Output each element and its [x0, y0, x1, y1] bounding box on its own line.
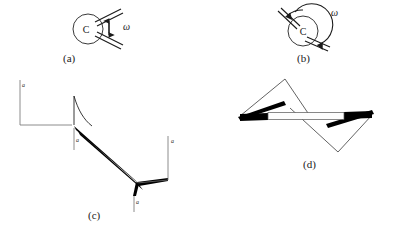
panel-c-dimension-label-3: a	[171, 138, 174, 144]
panel-a-caption: (a)	[63, 52, 76, 65]
panel-c-group: a a a a (c)	[20, 80, 174, 222]
panel-b-omega-label: ω	[331, 7, 338, 18]
panel-d-bar-right-cap	[344, 111, 372, 119]
panel-c-caption: (c)	[88, 209, 101, 222]
figure-canvas: C ω (a) C ω (b)	[0, 0, 402, 239]
panel-b-group: C ω (b)	[278, 4, 338, 65]
panel-d-central-bar	[268, 113, 344, 120]
panel-a-hinge-label: C	[83, 24, 90, 35]
panel-d-caption: (d)	[303, 158, 316, 171]
technical-figure: C ω (a) C ω (b)	[0, 0, 402, 239]
panel-b-hinge-label: C	[300, 26, 307, 37]
panel-c-band-upper	[74, 126, 139, 184]
panel-b-arm-lower	[305, 37, 330, 51]
panel-b-caption: (b)	[297, 52, 310, 65]
panel-c-left-end-member	[20, 80, 72, 125]
panel-c-right-knee	[137, 178, 168, 186]
panel-c-apex-shoulder	[74, 96, 92, 126]
panel-d-group: (d)	[238, 79, 374, 171]
panel-d-bar-left-cap	[240, 113, 268, 121]
panel-c-dimension-label-1: a	[22, 82, 25, 88]
panel-c-dimension-label-4: a	[136, 199, 139, 205]
panel-a-group: C ω (a)	[63, 9, 130, 65]
panel-c-drop-leg	[133, 182, 139, 196]
panel-c-dimension-label-2: a	[76, 137, 79, 143]
panel-a-omega-label: ω	[123, 21, 130, 32]
panel-c-band-lower	[78, 131, 143, 190]
